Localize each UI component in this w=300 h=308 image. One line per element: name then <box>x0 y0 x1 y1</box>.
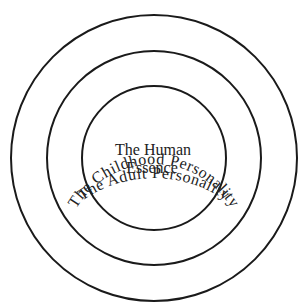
human-essence-line-1: The Human <box>115 141 191 158</box>
concentric-personality-diagram: The Adult Personality The Childhood Pers… <box>0 0 300 308</box>
human-essence-line-2: Essence <box>126 159 178 176</box>
